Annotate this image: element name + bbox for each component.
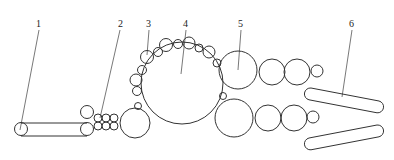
leader-line-1 [20, 30, 39, 130]
leader-line-6 [342, 30, 352, 97]
output-belts-6 [304, 88, 383, 150]
feed-roller [120, 108, 150, 138]
label-3: 3 [146, 18, 151, 29]
leader-line-5 [238, 30, 241, 70]
label-4: 4 [183, 18, 188, 29]
label-6: 6 [349, 18, 354, 29]
leader-line-4 [181, 30, 186, 74]
lower-roller-train [215, 99, 319, 137]
roller-diagram: 1 2 3 4 5 6 [0, 0, 394, 160]
leader-line-3 [147, 30, 149, 55]
label-2: 2 [118, 18, 123, 29]
label-1: 1 [36, 18, 41, 29]
leader-line-2 [100, 30, 120, 118]
belt-conveyor-1 [15, 106, 94, 137]
label-5: 5 [238, 18, 243, 29]
small-roller-cluster-2 [94, 114, 118, 130]
upper-roller-train-5 [219, 51, 323, 89]
